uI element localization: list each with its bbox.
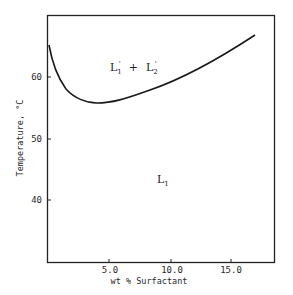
- x-tick-label: 15.0: [220, 265, 242, 275]
- two-phase-region-label: L1'+L2': [110, 60, 158, 76]
- svg-text:L1'+L2': L1'+L2': [110, 60, 158, 76]
- phase-diagram-chart: 60 50 40 Temperature, °C 5.0 10.0 15.0 w…: [0, 0, 293, 295]
- y-tick-label: 40: [31, 195, 42, 205]
- plot-frame: [48, 16, 275, 263]
- y-tick-label: 60: [31, 72, 42, 82]
- y-axis-title: Temperature, °C: [15, 100, 25, 177]
- x-tick-label: 10.0: [161, 265, 183, 275]
- y-tick-label: 50: [31, 134, 42, 144]
- x-tick-label: 5.0: [102, 265, 118, 275]
- x-axis-title: wt % Surfactant: [111, 276, 188, 286]
- single-phase-region-label: L1: [157, 173, 169, 188]
- svg-text:L1: L1: [157, 173, 169, 188]
- y-axis: 60 50 40 Temperature, °C: [15, 72, 51, 205]
